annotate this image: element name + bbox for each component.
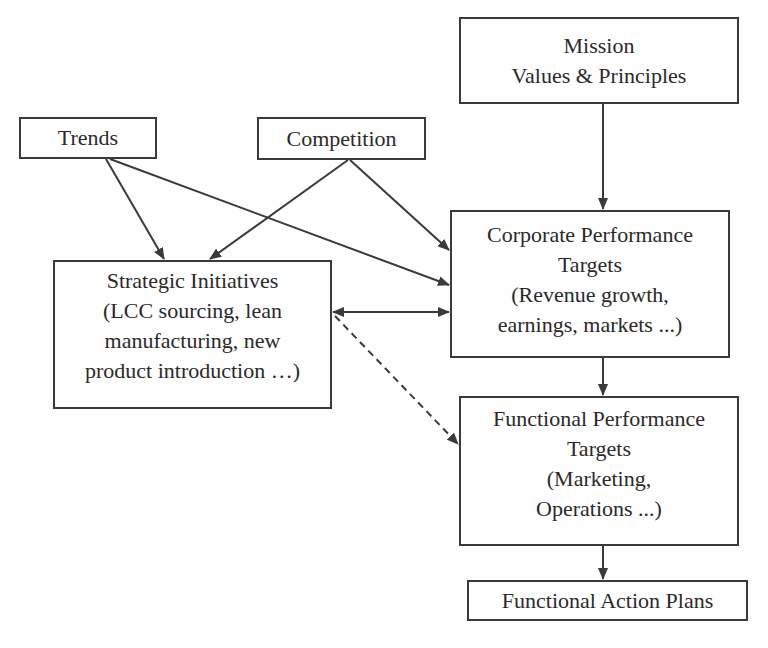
- node-trends: Trends: [19, 117, 157, 159]
- node-label-line: Values & Principles: [512, 61, 687, 91]
- node-label-line: Functional Action Plans: [502, 586, 713, 616]
- node-functional-performance-targets: Functional Performance Targets (Marketin…: [459, 396, 739, 546]
- node-label-line: Operations ...): [536, 494, 662, 524]
- node-label-line: Targets: [558, 250, 622, 280]
- node-corporate-performance-targets: Corporate Performance Targets (Revenue g…: [450, 210, 730, 358]
- arrow-trends-to-strategic: [106, 159, 164, 259]
- node-label-line: Mission: [564, 31, 635, 61]
- node-label-line: Trends: [58, 123, 118, 153]
- node-mission-values-principles: Mission Values & Principles: [459, 17, 739, 104]
- node-label-line: Targets: [567, 434, 631, 464]
- node-label-line: Functional Performance: [493, 404, 705, 434]
- arrow-competition-to-corporate: [350, 160, 449, 250]
- node-strategic-initiatives: Strategic Initiatives (LCC sourcing, lea…: [53, 260, 332, 409]
- node-label-line: Strategic Initiatives: [107, 266, 279, 296]
- arrow-competition-to-strategic: [210, 160, 348, 259]
- node-label-line: Competition: [287, 124, 397, 154]
- node-label-line: (Marketing,: [547, 464, 651, 494]
- arrow-strategic-to-functional-dashed: [335, 316, 458, 444]
- node-label-line: manufacturing, new: [105, 326, 281, 356]
- node-functional-action-plans: Functional Action Plans: [467, 580, 748, 621]
- node-label-line: product introduction …): [85, 356, 300, 386]
- node-label-line: earnings, markets ...): [498, 310, 683, 340]
- node-label-line: (LCC sourcing, lean: [103, 296, 282, 326]
- node-label-line: (Revenue growth,: [511, 280, 669, 310]
- node-competition: Competition: [257, 117, 426, 160]
- node-label-line: Corporate Performance: [487, 220, 693, 250]
